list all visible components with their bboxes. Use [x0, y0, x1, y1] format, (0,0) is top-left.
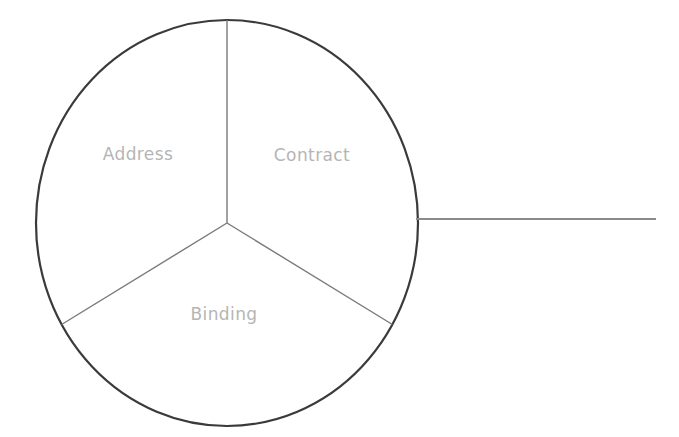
sector-label-address: Address	[103, 144, 174, 164]
diagram-canvas: Address Contract Binding	[0, 0, 679, 437]
sector-label-binding: Binding	[190, 304, 257, 324]
pie-diagram-svg	[0, 0, 679, 437]
sector-label-contract: Contract	[274, 145, 350, 165]
